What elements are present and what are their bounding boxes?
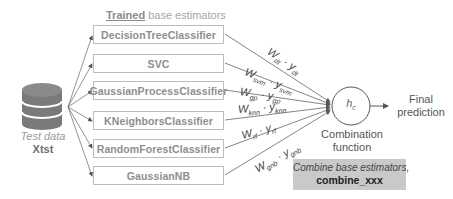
estimator-box-decisiontree: DecisionTreeClassifier bbox=[93, 25, 224, 44]
estimator-box-gaussiannb: GaussianNB bbox=[93, 166, 224, 185]
combine-note-function: combine_xxx bbox=[293, 174, 406, 186]
final-prediction-label: Finalprediction bbox=[388, 93, 453, 119]
estimator-box-svc: SVC bbox=[93, 54, 224, 73]
estimators-heading: Trained base estimators bbox=[106, 9, 226, 21]
estimator-box-gaussianprocess: GaussianProcessClassifier bbox=[93, 81, 224, 100]
estimator-box-randomforest: RandomForestClassifier bbox=[93, 139, 224, 158]
database-icon bbox=[22, 83, 62, 130]
combine-note-text: Combine base estimators, bbox=[293, 162, 406, 173]
combiner-symbol: hc bbox=[332, 97, 370, 111]
data-name: Xtst bbox=[14, 143, 72, 155]
combine-note: Combine base estimators, combine_xxx bbox=[293, 159, 406, 190]
input-arrows bbox=[68, 36, 92, 176]
estimator-box-kneighbors: KNeighborsClassifier bbox=[93, 111, 224, 130]
data-label: Test data bbox=[14, 130, 72, 142]
combiner-label: Combinationfunction bbox=[310, 128, 394, 154]
